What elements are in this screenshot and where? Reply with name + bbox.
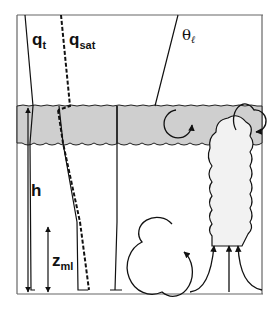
subcloud-eddy <box>127 217 192 296</box>
label-qt: qt <box>32 30 46 51</box>
qsat-profile <box>58 15 89 290</box>
label-qsat: qsat <box>69 30 96 51</box>
updraft-arrows <box>190 246 262 292</box>
boundary-layer-diagram: qt qsat θℓ h zml <box>0 0 276 311</box>
qt-profile <box>25 15 35 290</box>
theta-l-profile <box>110 15 178 290</box>
label-theta-l: θℓ <box>182 26 195 45</box>
label-zml: zml <box>52 251 73 272</box>
label-h: h <box>31 181 41 200</box>
